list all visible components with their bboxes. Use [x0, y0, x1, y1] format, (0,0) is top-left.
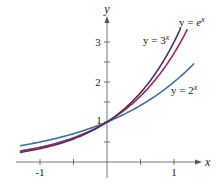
- y-axis-arrow-icon: [105, 16, 110, 23]
- exponential-chart: -11123yxy = 2xy = exy = 3x: [0, 0, 216, 186]
- y-axis-label: y: [103, 2, 110, 16]
- x-axis-arrow-icon: [195, 160, 202, 165]
- y-tick-label: 1: [96, 114, 102, 126]
- x-tick-label: -1: [35, 166, 44, 178]
- curve-label: y = 3x: [143, 33, 170, 46]
- y-tick-label: 2: [95, 76, 101, 88]
- curve-label: y = ex: [179, 15, 205, 28]
- curve-label: y = 2x: [171, 83, 198, 96]
- y-tick-label: 3: [95, 36, 101, 48]
- x-axis-label: x: [204, 155, 211, 169]
- labels: -11123yxy = 2xy = exy = 3x: [35, 2, 211, 178]
- x-tick-label: 1: [171, 166, 177, 178]
